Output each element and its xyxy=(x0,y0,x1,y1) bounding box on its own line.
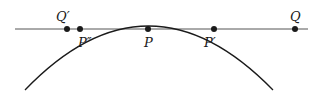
point-Q-label: Q xyxy=(290,9,301,24)
point-Q-prime-dot xyxy=(64,26,70,32)
point-P-prime-label: P′ xyxy=(203,35,216,50)
point-P-double-prime-label: P″ xyxy=(77,35,92,50)
point-Q-prime-label: Q′ xyxy=(56,9,70,24)
point-P-label: P xyxy=(143,35,153,50)
geometry-diagram: Q′P″PP′Q xyxy=(0,0,322,91)
point-P-double-prime-dot xyxy=(77,26,83,32)
point-Q-dot xyxy=(292,26,298,32)
point-P-prime-dot xyxy=(211,26,217,32)
point-P-dot xyxy=(145,26,151,32)
